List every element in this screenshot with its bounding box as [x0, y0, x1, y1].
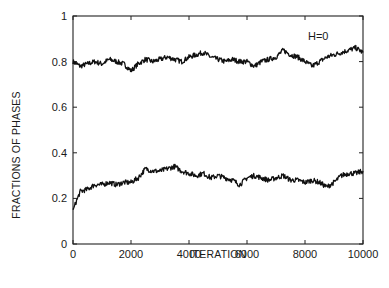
- y-axis-title: FRACTIONS OF PHASES: [10, 91, 22, 218]
- y-tick-label: 0: [61, 238, 67, 250]
- x-tick-label: 8000: [293, 248, 317, 260]
- x-tick-label: 10000: [348, 248, 379, 260]
- x-axis-title: ITERATION: [189, 248, 246, 260]
- series-line-lower: [73, 165, 363, 210]
- fractions-of-phases-chart: 0200040006000800010000 00.20.40.60.81 H=…: [0, 0, 389, 288]
- annotation-h0: H=0: [308, 30, 329, 42]
- y-tick-label: 0.8: [52, 56, 67, 68]
- series-layer: [73, 45, 363, 209]
- y-axis-ticks: 00.20.40.60.81: [52, 10, 363, 250]
- x-tick-label: 0: [70, 248, 76, 260]
- plot-frame: [73, 16, 363, 244]
- y-tick-label: 0.6: [52, 101, 67, 113]
- x-tick-label: 2000: [119, 248, 143, 260]
- y-tick-label: 1: [61, 10, 67, 22]
- y-tick-label: 0.2: [52, 192, 67, 204]
- y-tick-label: 0.4: [52, 147, 67, 159]
- x-axis-ticks: 0200040006000800010000: [70, 16, 378, 260]
- series-line-upper: [73, 45, 363, 71]
- plot-border: [73, 16, 363, 244]
